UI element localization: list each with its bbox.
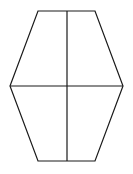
- hexagon-diagram: [0, 0, 133, 174]
